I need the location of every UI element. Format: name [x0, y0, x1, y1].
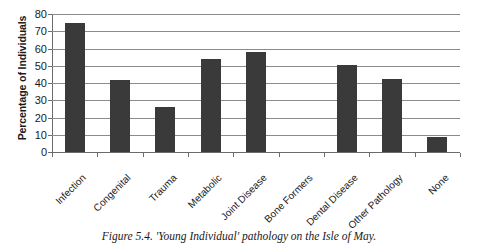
bar[interactable] [65, 23, 85, 152]
bar[interactable] [246, 52, 266, 152]
bar[interactable] [337, 65, 357, 152]
x-tick-mark [97, 153, 98, 157]
y-tick-label-80: 80 [21, 9, 47, 20]
bar-slot [188, 14, 233, 152]
bar[interactable] [382, 79, 402, 152]
figure-container: Percentage of Individuals 80706050403020… [0, 0, 478, 250]
bar-slot [52, 14, 97, 152]
y-tick-label-30: 30 [21, 95, 47, 106]
y-tick-label-10: 10 [21, 129, 47, 140]
bar[interactable] [427, 137, 447, 152]
y-tick-label-70: 70 [21, 26, 47, 37]
y-tick-label-60: 60 [21, 43, 47, 54]
plot-area: 80706050403020100 InfectionCongenitalTra… [52, 14, 460, 152]
x-tick-mark [324, 153, 325, 157]
bar-slot [233, 14, 278, 152]
x-tick-mark [460, 153, 461, 157]
gridline-0 [52, 152, 460, 153]
bar-slot [143, 14, 188, 152]
x-tick-mark [143, 153, 144, 157]
y-tick-label-40: 40 [21, 78, 47, 89]
bars-group [52, 14, 460, 152]
x-tick-mark-origin [52, 153, 53, 157]
bar[interactable] [201, 59, 221, 152]
y-tick-label-0: 0 [21, 147, 47, 158]
x-tick-label-trauma: Trauma [147, 172, 179, 204]
x-tick-label-metabolic: Metabolic [186, 172, 224, 210]
x-tick-mark [415, 153, 416, 157]
x-tick-mark [369, 153, 370, 157]
bar-slot [415, 14, 460, 152]
y-tick-label-50: 50 [21, 60, 47, 71]
x-tick-mark [279, 153, 280, 157]
x-tick-label-congenital: Congenital [92, 172, 134, 214]
x-tick-mark [233, 153, 234, 157]
bar-slot [324, 14, 369, 152]
bar-slot [97, 14, 142, 152]
x-tick-label-none: None [426, 172, 451, 197]
figure-caption: Figure 5.4. 'Young Individual' pathology… [0, 230, 478, 242]
x-tick-mark [188, 153, 189, 157]
y-tick-label-20: 20 [21, 112, 47, 123]
bar-slot [279, 14, 324, 152]
bar[interactable] [155, 107, 175, 152]
bar-slot [369, 14, 414, 152]
bar[interactable] [110, 80, 130, 152]
x-tick-label-infection: Infection [53, 172, 88, 207]
x-tick-label-joint-disease: Joint Disease [219, 172, 269, 222]
